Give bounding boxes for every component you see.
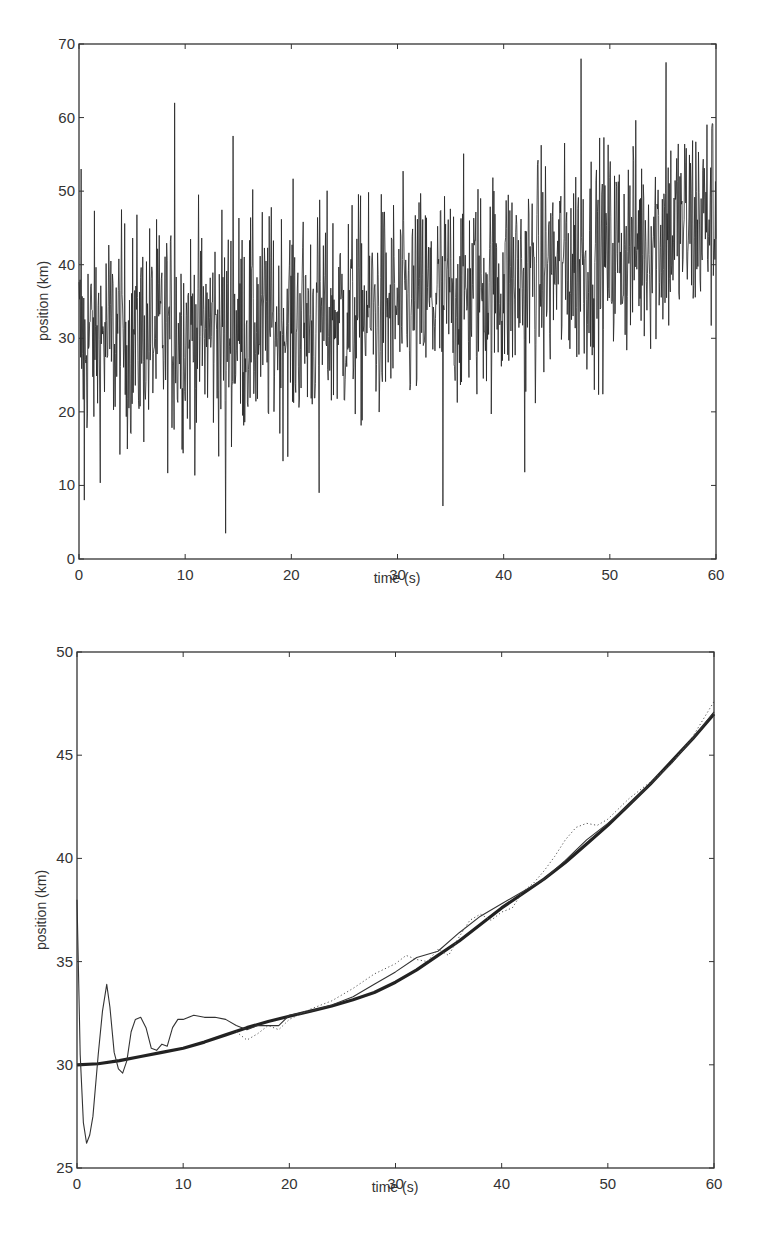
noisy-measurement-line (79, 59, 716, 534)
bottom-plot-y-tick-labels: 253035404550 (56, 643, 73, 1176)
top-plot-x-axis-label: time (s) (374, 570, 421, 586)
top-plot-y-tick-labels: 010203040506070 (58, 35, 75, 567)
bottom-plot-axes-frame (77, 652, 714, 1168)
noisy-measurement-series (79, 59, 716, 534)
y-tick-label: 0 (67, 550, 75, 567)
y-tick-label: 30 (58, 329, 75, 346)
x-tick-label: 40 (495, 566, 512, 583)
y-tick-label: 70 (58, 35, 75, 52)
figure: 0102030405060 010203040506070 time (s) p… (0, 0, 759, 1250)
y-tick-label: 40 (58, 256, 75, 273)
top-plot-noisy-measurements: 0102030405060 010203040506070 time (s) p… (35, 35, 724, 586)
y-tick-label: 30 (56, 1056, 73, 1073)
y-tick-label: 45 (56, 746, 73, 763)
bottom-plot-y-axis-label: position (km) (33, 870, 49, 950)
y-tick-label: 50 (56, 643, 73, 660)
x-tick-label: 60 (708, 566, 725, 583)
top-plot-y-axis-label: position (km) (35, 261, 51, 341)
x-tick-label: 10 (177, 566, 194, 583)
x-tick-label: 0 (75, 566, 83, 583)
x-tick-label: 10 (175, 1175, 192, 1192)
y-tick-label: 60 (58, 109, 75, 126)
bottom-plot-ticks (77, 652, 714, 1168)
y-tick-label: 35 (56, 953, 73, 970)
bottom-plot-x-axis-label: time (s) (372, 1179, 419, 1195)
y-tick-label: 40 (56, 849, 73, 866)
x-tick-label: 50 (599, 1175, 616, 1192)
bottom-plot-estimates: 0102030405060 253035404550 time (s) posi… (33, 643, 722, 1195)
estimate-series (77, 702, 714, 1144)
y-tick-label: 10 (58, 476, 75, 493)
x-tick-label: 20 (283, 566, 300, 583)
true-position-line (77, 714, 714, 1065)
y-tick-label: 50 (58, 182, 75, 199)
filter-estimate-line (77, 712, 714, 1143)
x-tick-label: 50 (601, 566, 618, 583)
x-tick-label: 20 (281, 1175, 298, 1192)
x-tick-label: 0 (73, 1175, 81, 1192)
x-tick-label: 40 (493, 1175, 510, 1192)
smoothed-estimate-dotted-line (236, 702, 714, 1040)
y-tick-label: 20 (58, 403, 75, 420)
y-tick-label: 25 (56, 1159, 73, 1176)
x-tick-label: 60 (706, 1175, 723, 1192)
